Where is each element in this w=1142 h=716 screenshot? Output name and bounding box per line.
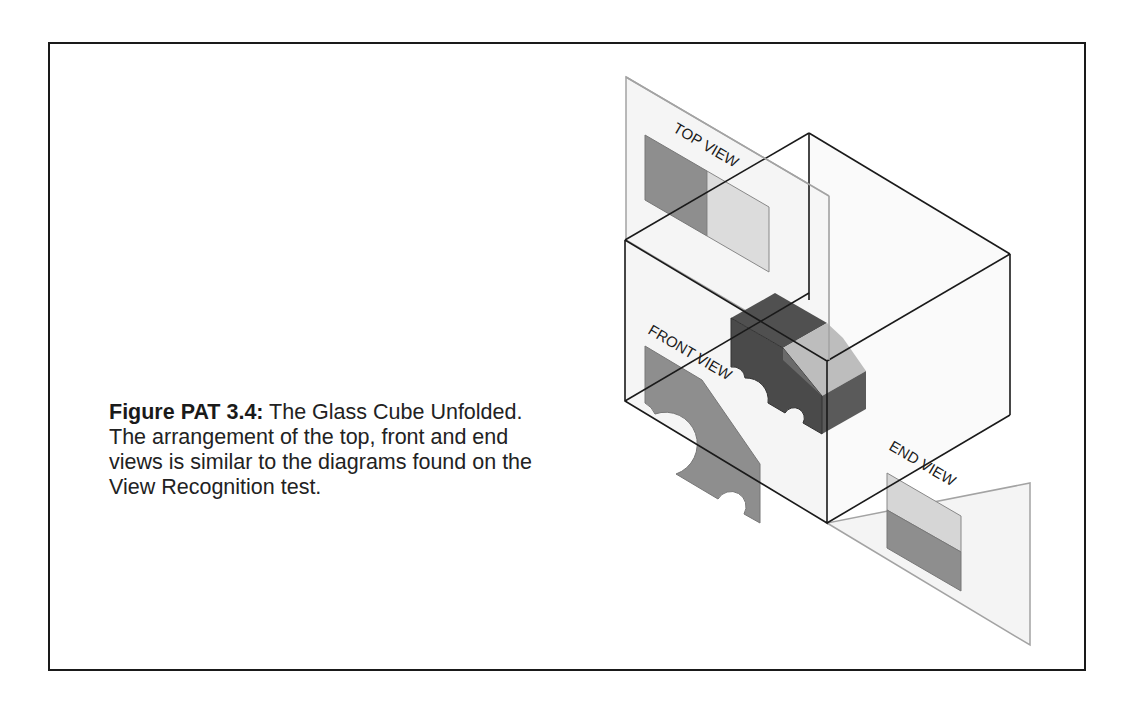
glass-cube-diagram: TOP VIEW END VIEW FRONT VIEW [0,0,1142,716]
